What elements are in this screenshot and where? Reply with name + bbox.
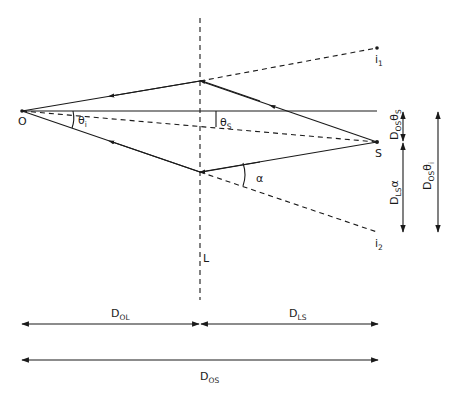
alpha-arc	[243, 163, 245, 186]
alpha-label: α	[256, 172, 263, 185]
dls-alpha-label: DLSα	[388, 180, 403, 205]
observer-point	[20, 109, 24, 113]
theta-i-arc	[72, 111, 74, 128]
dos-theta-s-label: DOSθS	[388, 109, 403, 140]
observer-label: O	[18, 115, 27, 128]
dos-theta-i-label: DOSθi	[421, 162, 436, 190]
source-label: S	[375, 147, 382, 160]
image1-point	[375, 46, 379, 50]
image2-extension	[200, 172, 377, 232]
theta-s-label: θS	[220, 116, 232, 131]
lens-label: L	[203, 252, 210, 265]
image1-extension	[200, 48, 377, 81]
lens-geometry-diagram: O S L i1 i2 θi θS α DOSθS DLSα DOSθi DOL…	[0, 0, 460, 396]
image1-label: i1	[375, 53, 383, 68]
source-point	[375, 140, 379, 144]
image2-label: i2	[375, 237, 383, 252]
dls-label: DLS	[289, 307, 307, 322]
dol-label: DOL	[111, 307, 130, 322]
dos-label: DOS	[200, 370, 219, 385]
